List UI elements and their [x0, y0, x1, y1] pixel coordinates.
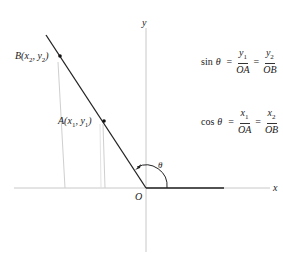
point-b	[58, 54, 62, 58]
cos-frac1-den: OA	[237, 124, 252, 135]
sin-frac1-den: OA	[235, 64, 250, 75]
sin-frac2-sub: 2	[270, 53, 274, 61]
cos-formula: cos θ = x1 OA = x2 OB	[201, 107, 279, 135]
point-b-close: )	[45, 50, 48, 61]
angle-arc	[137, 165, 167, 188]
point-a-mid: , y	[75, 115, 84, 126]
origin-label: O	[135, 192, 142, 202]
point-a-label: A(x1, y1)	[58, 116, 92, 130]
point-a-open: (x	[64, 115, 72, 126]
x-axis-label: x	[273, 183, 277, 193]
cos-frac2: x2 OB	[264, 107, 279, 135]
dropline-a2	[100, 124, 101, 188]
sin-frac1-sub: 1	[243, 53, 247, 61]
sin-formula: sin θ = y1 OA = y2 OB	[201, 47, 278, 75]
point-b-open: (x	[21, 50, 29, 61]
cos-frac1: x1 OA	[237, 107, 252, 135]
diagram-canvas: y x O θ B(x2, y2) A(x1, y1) sin θ = y1 O…	[0, 0, 283, 260]
sin-theta: θ	[216, 56, 221, 67]
point-b-mid: , y	[32, 50, 41, 61]
cos-eq1: =	[228, 116, 234, 127]
point-b-label: B(x2, y2)	[15, 51, 49, 65]
angle-label: θ	[158, 160, 162, 170]
cos-frac1-sub: 1	[245, 113, 249, 121]
cos-fn: cos	[201, 116, 214, 127]
cos-frac2-den: OB	[264, 124, 279, 135]
cos-frac2-sub: 2	[272, 113, 276, 121]
sin-frac1: y1 OA	[235, 47, 250, 75]
sin-eq2: =	[254, 56, 260, 67]
cos-theta: θ	[217, 116, 222, 127]
point-a	[102, 119, 106, 123]
dropline-a	[103, 124, 105, 188]
y-axis-label: y	[142, 18, 146, 28]
cos-eq2: =	[255, 116, 261, 127]
sin-frac2-den: OB	[262, 64, 277, 75]
arrowhead-icon	[135, 164, 141, 170]
sin-frac2: y2 OB	[262, 47, 277, 75]
point-a-close: )	[88, 115, 91, 126]
sin-eq1: =	[227, 56, 233, 67]
sin-fn: sin	[201, 56, 213, 67]
